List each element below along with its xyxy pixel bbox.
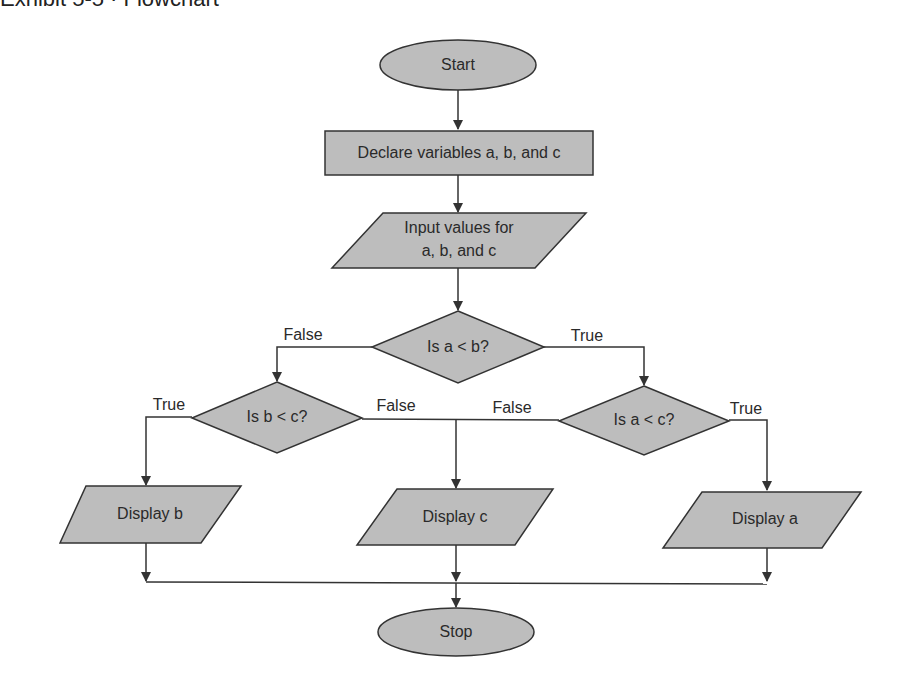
node-display-b-label: Display b: [117, 505, 183, 522]
edge-label-b-lt-c-false: False: [376, 397, 415, 414]
node-decision-b-lt-c: Is b < c?: [192, 382, 362, 453]
node-display-a: Display a: [663, 492, 861, 548]
node-input-label-line2: a, b, and c: [422, 242, 497, 259]
node-decision-a-lt-b: Is a < b?: [372, 311, 544, 383]
node-decision-a-lt-c-label: Is a < c?: [614, 411, 675, 428]
node-stop-label: Stop: [440, 623, 473, 640]
node-start: Start: [380, 40, 536, 90]
flowchart: Start Declare variables a, b, and c Inpu…: [0, 0, 901, 700]
node-decision-a-lt-b-label: Is a < b?: [427, 338, 489, 355]
edge-label-a-lt-b-false: False: [283, 326, 322, 343]
node-display-b: Display b: [60, 486, 241, 543]
node-decision-a-lt-c: Is a < c?: [559, 386, 729, 455]
edge-label-a-lt-b-true: True: [571, 327, 603, 344]
edge-a-lt-b-true: [544, 347, 644, 385]
edge-a-lt-b-false: [277, 347, 372, 381]
node-display-c-label: Display c: [423, 508, 488, 525]
node-display-c: Display c: [357, 489, 553, 545]
edge-b-lt-c-true: [146, 417, 192, 485]
node-stop: Stop: [378, 608, 534, 656]
edge-label-a-lt-c-false: False: [492, 399, 531, 416]
edge-label-b-lt-c-true: True: [153, 396, 185, 413]
node-input: Input values for a, b, and c: [332, 213, 586, 268]
node-start-label: Start: [441, 56, 475, 73]
edge-false-join: [362, 419, 559, 420]
edge-label-a-lt-c-true: True: [730, 400, 762, 417]
node-input-label-line1: Input values for: [404, 219, 514, 236]
node-declare-label: Declare variables a, b, and c: [358, 144, 561, 161]
node-decision-b-lt-c-label: Is b < c?: [247, 408, 308, 425]
node-display-a-label: Display a: [732, 510, 798, 527]
node-declare: Declare variables a, b, and c: [325, 131, 593, 175]
edge-a-lt-c-true: [729, 420, 767, 490]
